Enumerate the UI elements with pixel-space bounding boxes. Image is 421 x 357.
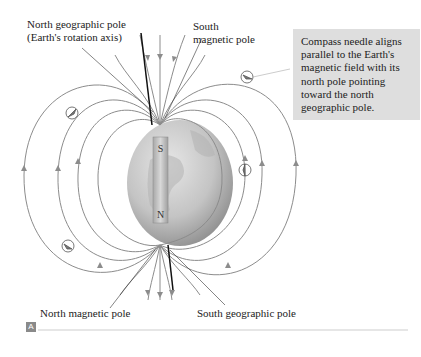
label-line-1: North geographic pole: [27, 18, 126, 31]
label-line-2: (Earth's rotation axis): [27, 31, 126, 44]
magnet-s-pole: S: [158, 143, 164, 154]
label-line-1: South: [193, 20, 255, 33]
divider: [38, 329, 408, 331]
compass-callout: Compass needle aligns parallel to the Ea…: [293, 29, 420, 120]
magnet-n-pole: N: [157, 209, 164, 220]
label-line-2: magnetic pole: [193, 33, 255, 46]
label-north-magnetic-pole: North magnetic pole: [40, 307, 130, 320]
bar-magnet: S N: [153, 137, 168, 223]
label-south-geographic-pole: South geographic pole: [197, 307, 296, 320]
panel-label: A: [26, 322, 36, 332]
earth-globe: [127, 120, 233, 246]
label-south-magnetic-pole: South magnetic pole: [193, 20, 255, 46]
label-north-geographic-pole: North geographic pole (Earth's rotation …: [27, 18, 126, 44]
